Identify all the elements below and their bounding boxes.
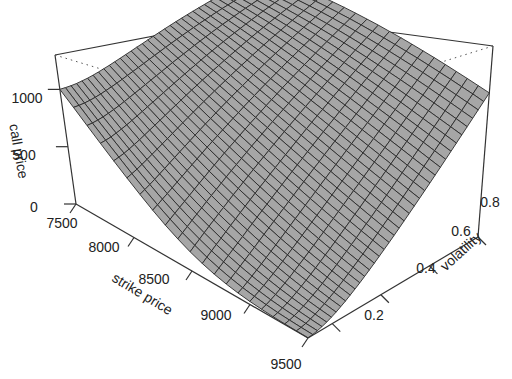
surface-plot: 0 500 1000 call price 7500 8000 8500 900…	[0, 0, 512, 379]
y-tick	[381, 295, 389, 303]
box-edge	[55, 55, 76, 204]
x-tick-label: 9000	[200, 307, 231, 323]
z-axis-title: call price	[6, 123, 31, 180]
x-tick	[186, 271, 192, 280]
x-tick	[302, 338, 308, 347]
y-tick-label: 0.8	[480, 194, 500, 210]
x-tick	[70, 204, 76, 213]
x-tick-label: 9500	[270, 356, 301, 372]
x-tick	[128, 238, 134, 247]
z-tick-label: 0	[30, 199, 38, 215]
x-tick-label: 7500	[46, 215, 77, 231]
y-tick-label: 0.2	[364, 307, 384, 323]
x-tick-label: 8000	[88, 239, 119, 255]
z-tick-label: 1000	[11, 90, 42, 106]
x-tick	[244, 305, 250, 314]
y-tick	[332, 324, 340, 332]
y-tick-label: 0.4	[416, 260, 436, 276]
